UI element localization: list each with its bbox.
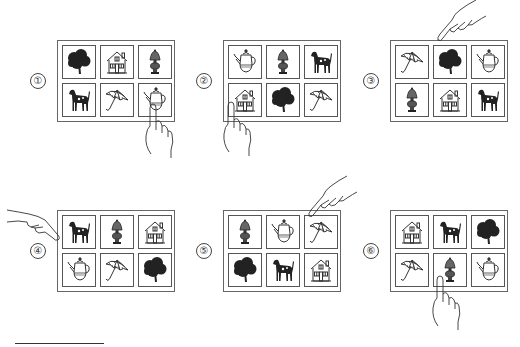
footnote-rule <box>15 343 104 344</box>
grid-cell-tree-selected[interactable] <box>433 45 467 79</box>
picture-grid <box>57 210 175 292</box>
grid-cell-dog[interactable] <box>433 215 467 249</box>
teapot-icon <box>65 256 93 284</box>
grid-cell-tree[interactable] <box>266 83 300 117</box>
tree-icon <box>231 256 259 284</box>
grid-cell-lamp[interactable] <box>266 45 300 79</box>
grid-cell-dog[interactable] <box>471 83 505 117</box>
grid-cell-lamp[interactable] <box>395 83 429 117</box>
grid-cell-house[interactable] <box>395 215 429 249</box>
dog-icon <box>436 218 464 246</box>
umbrella-icon <box>398 256 426 284</box>
umbrella-icon <box>307 218 335 246</box>
picture-grid <box>57 40 175 122</box>
dog-icon <box>65 218 93 246</box>
lamp-icon <box>231 218 259 246</box>
grid-cell-lamp[interactable] <box>138 45 172 79</box>
grid-cell-lamp[interactable] <box>100 215 134 249</box>
tree-icon <box>269 86 297 114</box>
picture-grid <box>223 210 341 292</box>
umbrella-icon <box>103 86 131 114</box>
teapot-icon <box>474 256 502 284</box>
house-icon <box>436 86 464 114</box>
grid-cell-tree[interactable] <box>138 253 172 287</box>
dog-icon <box>269 256 297 284</box>
teapot-icon <box>474 48 502 76</box>
grid-cell-dog-selected[interactable] <box>62 215 96 249</box>
dog-icon <box>65 86 93 114</box>
picture-grid <box>223 40 341 122</box>
grid-cell-teapot[interactable] <box>266 215 300 249</box>
lamp-icon <box>269 48 297 76</box>
step-number: ① <box>30 73 46 89</box>
lamp-icon <box>141 48 169 76</box>
grid-cell-teapot[interactable] <box>471 45 505 79</box>
grid-cell-umbrella[interactable] <box>395 45 429 79</box>
grid-cell-house[interactable] <box>304 253 338 287</box>
house-icon <box>307 256 335 284</box>
step-number: ③ <box>363 73 379 89</box>
grid-cell-umbrella[interactable] <box>304 83 338 117</box>
grid-cell-dog[interactable] <box>266 253 300 287</box>
lamp-icon <box>103 218 131 246</box>
grid-cell-teapot-selected[interactable] <box>138 83 172 117</box>
tree-icon <box>141 256 169 284</box>
tree-icon <box>65 48 93 76</box>
lamp-icon <box>436 256 464 284</box>
tree-icon <box>436 48 464 76</box>
umbrella-icon <box>103 256 131 284</box>
grid-cell-umbrella[interactable] <box>100 83 134 117</box>
grid-cell-teapot[interactable] <box>471 253 505 287</box>
tree-icon <box>474 218 502 246</box>
step-number: ⑥ <box>363 243 379 259</box>
picture-grid <box>390 40 508 122</box>
grid-cell-umbrella-selected[interactable] <box>304 215 338 249</box>
step-number: ④ <box>30 243 46 259</box>
grid-cell-teapot[interactable] <box>228 45 262 79</box>
grid-cell-house[interactable] <box>433 83 467 117</box>
house-icon <box>103 48 131 76</box>
grid-cell-teapot[interactable] <box>62 253 96 287</box>
picture-grid <box>390 210 508 292</box>
grid-cell-dog[interactable] <box>62 83 96 117</box>
grid-cell-umbrella[interactable] <box>100 253 134 287</box>
grid-cell-tree[interactable] <box>471 215 505 249</box>
step-number: ⑤ <box>196 243 212 259</box>
dog-icon <box>474 86 502 114</box>
grid-cell-house-selected[interactable] <box>228 83 262 117</box>
grid-cell-tree[interactable] <box>228 253 262 287</box>
grid-cell-umbrella[interactable] <box>395 253 429 287</box>
dog-icon <box>307 48 335 76</box>
teapot-icon <box>141 86 169 114</box>
grid-cell-lamp-selected[interactable] <box>433 253 467 287</box>
house-icon <box>141 218 169 246</box>
lamp-icon <box>398 86 426 114</box>
step-number: ② <box>196 73 212 89</box>
grid-cell-house[interactable] <box>138 215 172 249</box>
umbrella-icon <box>398 48 426 76</box>
grid-cell-lamp[interactable] <box>228 215 262 249</box>
teapot-icon <box>269 218 297 246</box>
house-icon <box>398 218 426 246</box>
house-icon <box>231 86 259 114</box>
teapot-icon <box>231 48 259 76</box>
grid-cell-house[interactable] <box>100 45 134 79</box>
grid-cell-tree[interactable] <box>62 45 96 79</box>
pointing-hand-icon <box>5 208 63 248</box>
umbrella-icon <box>307 86 335 114</box>
grid-cell-dog[interactable] <box>304 45 338 79</box>
